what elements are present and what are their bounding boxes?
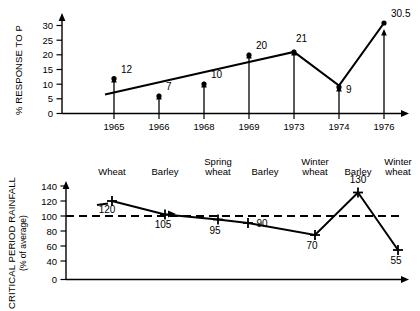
y-tick-label: 30 — [42, 20, 53, 31]
y-tick-label: 40 — [46, 256, 57, 267]
category-label-line2: Barley — [252, 166, 279, 177]
y-axis-arrowhead-top — [59, 13, 66, 21]
category-label-line2: Barley — [152, 166, 179, 177]
data-label: 70 — [306, 240, 318, 251]
y-axis-arrowhead-bottom — [63, 181, 70, 189]
y-tick-label: 120 — [41, 196, 57, 207]
y-tick-label: 0 — [48, 108, 53, 119]
y-axis-title-bottom-line2: (% of average) — [18, 215, 28, 271]
category-vertical-lines-top — [114, 32, 384, 114]
x-tick-label: 1974 — [328, 121, 349, 132]
data-label: 90 — [256, 218, 268, 229]
data-label: 55 — [390, 255, 402, 266]
y-tick-label: 80 — [46, 226, 57, 237]
y-tick-label: 15 — [42, 64, 53, 75]
data-label: 120 — [99, 204, 116, 215]
data-label: 7 — [166, 81, 172, 92]
category-label-line2: wheat — [301, 166, 328, 177]
data-label: 12 — [121, 64, 133, 75]
data-label: 20 — [256, 40, 268, 51]
y-tick-label: 5 — [48, 93, 53, 104]
y-ticks-top: 0 5 10 15 20 25 30 — [42, 20, 62, 119]
category-label-line2: Wheat — [98, 166, 126, 177]
data-label: 9 — [346, 84, 352, 95]
data-label: 30.5 — [391, 8, 411, 19]
data-point — [291, 49, 296, 54]
x-tick-label: 1973 — [283, 121, 304, 132]
y-tick-label: 100 — [41, 211, 57, 222]
x-tick-label: 1966 — [148, 121, 169, 132]
x-tick-label: 1965 — [103, 121, 124, 132]
figure-svg: % RESPONSE TO P 0 5 10 15 20 25 30 — [0, 0, 420, 311]
y-tick-label: 60 — [46, 241, 57, 252]
x-axis-arrowhead-top — [401, 110, 409, 117]
x-tick-label: 1969 — [238, 121, 259, 132]
y-tick-label: 10 — [42, 79, 53, 90]
plus-marker — [243, 218, 253, 228]
data-label: 130 — [350, 174, 367, 185]
data-label: 95 — [209, 225, 221, 236]
data-label: 105 — [155, 219, 172, 230]
category-label-line2: wheat — [204, 166, 231, 177]
data-point — [246, 52, 251, 57]
x-tick-labels-top: 1965 1966 1968 1969 1973 1974 1976 — [103, 121, 394, 132]
y-ticks-bottom: 0 40 60 80 100 120 140 — [41, 181, 66, 286]
data-point — [201, 81, 206, 86]
chart-critical-period-rainfall: CRITICAL PERIOD RAINFALL (% of average) … — [6, 156, 412, 309]
data-point — [156, 93, 161, 98]
data-point — [111, 76, 116, 81]
data-labels-bottom: 120 105 95 90 70 130 55 — [99, 174, 402, 266]
y-axis-title-top: % RESPONSE TO P — [13, 25, 24, 115]
trend-line-top — [105, 23, 384, 95]
data-points-bottom — [107, 188, 403, 256]
chart-response-to-p: % RESPONSE TO P 0 5 10 15 20 25 30 — [13, 8, 411, 132]
figure-container: % RESPONSE TO P 0 5 10 15 20 25 30 — [0, 0, 420, 311]
data-label: 21 — [296, 33, 308, 44]
x-tick-label: 1976 — [373, 121, 394, 132]
y-tick-label: 20 — [42, 49, 53, 60]
x-ticks-top — [114, 114, 384, 120]
x-tick-label: 1968 — [193, 121, 214, 132]
y-tick-label: 0 — [52, 274, 57, 285]
y-tick-label: 25 — [42, 35, 53, 46]
category-label-line2: wheat — [384, 166, 411, 177]
y-axis-title-bottom-line1: CRITICAL PERIOD RAINFALL — [6, 177, 17, 309]
data-point — [336, 84, 341, 89]
y-tick-label: 140 — [41, 181, 57, 192]
data-label: 10 — [211, 69, 223, 80]
data-point — [381, 20, 386, 25]
x-axis-arrowhead-bottom — [401, 276, 409, 283]
